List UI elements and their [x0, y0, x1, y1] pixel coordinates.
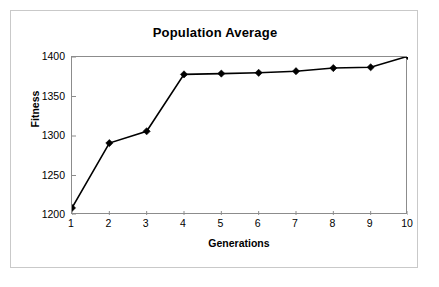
- x-axis-tick-label: 2: [105, 217, 111, 229]
- data-point-marker: [106, 140, 113, 147]
- data-point-marker: [255, 69, 262, 76]
- y-axis-tick-labels: 12001250130013501400: [25, 56, 69, 214]
- data-point-marker: [367, 64, 374, 71]
- y-axis-tick-label: 1350: [42, 90, 65, 102]
- y-axis-tick-label: 1200: [42, 208, 65, 220]
- series-line-population-average: [72, 57, 408, 208]
- x-axis-tick-label: 7: [292, 217, 298, 229]
- x-axis-tick-label: 1: [68, 217, 74, 229]
- x-axis-tick-label: 8: [329, 217, 335, 229]
- figure-container: Population Average Fitness 1200125013001…: [0, 0, 439, 287]
- x-axis-tick-labels: 12345678910: [71, 217, 407, 233]
- x-axis-tick-label: 5: [217, 217, 223, 229]
- chart-frame: Population Average Fitness 1200125013001…: [10, 10, 418, 268]
- y-axis-tick-label: 1250: [42, 169, 65, 181]
- series-markers-population-average: [72, 57, 408, 211]
- data-point-marker: [218, 70, 225, 77]
- x-axis-title: Generations: [71, 237, 407, 249]
- x-axis-tick-label: 4: [180, 217, 186, 229]
- data-point-marker: [330, 64, 337, 71]
- x-axis-tick-label: 3: [143, 217, 149, 229]
- x-axis-tick-marks: [72, 211, 408, 215]
- x-axis-tick-label: 6: [255, 217, 261, 229]
- plot-area: [71, 56, 407, 214]
- chart-title: Population Average: [11, 25, 419, 40]
- y-axis-tick-label: 1300: [42, 129, 65, 141]
- y-axis-tick-marks: [72, 57, 76, 215]
- x-axis-tick-label: 9: [367, 217, 373, 229]
- y-axis-tick-label: 1400: [42, 50, 65, 62]
- data-point-marker: [292, 68, 299, 75]
- x-axis-tick-label: 10: [401, 217, 413, 229]
- line-chart-svg: [72, 57, 408, 215]
